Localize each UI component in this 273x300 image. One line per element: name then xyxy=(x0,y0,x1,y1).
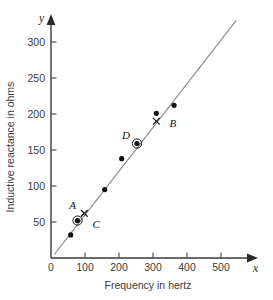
x-tick-label-400: 400 xyxy=(178,261,196,273)
y-axis-variable-label: y xyxy=(38,12,45,25)
x-tick-label-300: 300 xyxy=(144,261,162,273)
x-tick-label-500: 500 xyxy=(212,261,230,273)
point-label-b: B xyxy=(169,117,176,129)
data-point xyxy=(171,103,176,108)
chart-figure: 0 100 200 300 400 500 50 100 150 200 250… xyxy=(0,0,273,300)
x-axis-variable-label: x xyxy=(252,262,259,274)
y-tick-label-150: 150 xyxy=(27,144,45,156)
y-tick-label-250: 250 xyxy=(27,72,45,84)
y-tick-label-100: 100 xyxy=(27,180,45,192)
y-axis-ticks xyxy=(51,42,57,222)
x-axis-title: Frequency in hertz xyxy=(105,279,192,291)
y-tick-label-300: 300 xyxy=(27,36,45,48)
data-point xyxy=(154,111,159,116)
point-label-a: A xyxy=(68,199,76,211)
y-axis-arrowhead xyxy=(47,14,56,25)
data-point-group xyxy=(68,103,177,238)
point-label-c: C xyxy=(93,218,101,230)
x-tick-labels: 0 100 200 300 400 500 xyxy=(48,261,230,273)
data-point xyxy=(119,156,124,161)
annotation-group: ABCD xyxy=(68,117,176,229)
data-point xyxy=(102,187,107,192)
data-point xyxy=(68,232,73,237)
y-axis-title: Inductive reactance in ohms xyxy=(4,82,16,213)
data-point xyxy=(134,141,139,146)
y-tick-labels: 50 100 150 200 250 300 xyxy=(27,36,45,228)
x-tick-label-0: 0 xyxy=(48,261,54,273)
data-point xyxy=(75,218,80,223)
x-tick-label-100: 100 xyxy=(76,261,94,273)
scatter-plot-svg: 0 100 200 300 400 500 50 100 150 200 250… xyxy=(0,0,273,300)
y-tick-label-200: 200 xyxy=(27,108,45,120)
point-label-d: D xyxy=(121,129,130,141)
x-axis-ticks xyxy=(85,253,221,259)
x-tick-label-200: 200 xyxy=(110,261,128,273)
y-tick-label-50: 50 xyxy=(33,216,45,228)
